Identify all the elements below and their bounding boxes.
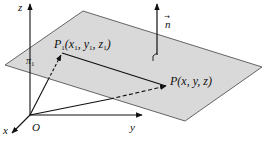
plane-pi1 — [5, 11, 262, 121]
x-axis — [12, 115, 30, 133]
p-label: P(x, y, z) — [169, 74, 212, 88]
vector-o-p — [30, 99, 110, 115]
diagram-svg: z y x O π1 n → P1(x1, y1, z1) P(x, y, z) — [0, 0, 266, 141]
diagram-canvas: z y x O π1 n → P1(x1, y1, z1) P(x, y, z) — [0, 0, 266, 141]
z-label: z — [17, 1, 23, 13]
normal-arrow-mark: → — [164, 13, 170, 21]
vector-o-p1 — [30, 80, 48, 115]
y-label: y — [129, 121, 135, 133]
origin-label: O — [32, 121, 40, 133]
x-label: x — [2, 124, 8, 136]
